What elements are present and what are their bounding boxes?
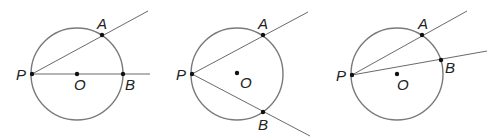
ray-PA xyxy=(32,11,148,74)
point-B xyxy=(261,110,265,114)
label-B: B xyxy=(125,76,135,93)
label-P: P xyxy=(176,66,186,83)
label-O: O xyxy=(74,76,86,93)
label-B: B xyxy=(258,116,268,133)
ray-PA xyxy=(192,12,308,74)
diagram-2-center-inside-case: POAB xyxy=(176,12,310,136)
label-O: O xyxy=(397,76,409,93)
point-A xyxy=(420,33,424,37)
label-B: B xyxy=(445,59,455,76)
point-O xyxy=(235,71,239,75)
ray-PB xyxy=(352,51,487,75)
point-A xyxy=(261,33,265,37)
label-A: A xyxy=(257,15,268,32)
point-A xyxy=(100,33,104,37)
diagram-3-center-outside-case: POAB xyxy=(336,11,487,120)
inscribed-angle-diagrams: POAB POAB POAB xyxy=(0,0,503,140)
label-A: A xyxy=(96,15,107,32)
label-P: P xyxy=(16,66,26,83)
point-P xyxy=(190,72,194,76)
label-A: A xyxy=(417,15,428,32)
label-O: O xyxy=(240,74,252,91)
point-P xyxy=(350,73,354,77)
point-P xyxy=(30,72,34,76)
label-P: P xyxy=(336,67,346,84)
diagram-1-diameter-case: POAB xyxy=(16,11,150,120)
point-B xyxy=(439,58,443,62)
